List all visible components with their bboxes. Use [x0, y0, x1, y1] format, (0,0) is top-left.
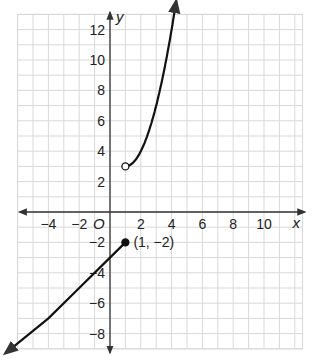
y-tick-label: −6 [89, 295, 105, 311]
x-tick-label: −4 [40, 216, 56, 232]
y-tick-label: −8 [89, 326, 105, 342]
y-tick-label: −4 [89, 265, 105, 281]
x-tick-label: 8 [229, 216, 237, 232]
y-tick-label: 4 [97, 143, 105, 159]
x-tick-label: 10 [256, 216, 272, 232]
x-tick-label: 6 [199, 216, 207, 232]
y-axis-label: y [115, 8, 125, 25]
y-tick-label: 8 [97, 82, 105, 98]
open-endpoint [122, 163, 129, 170]
closed-endpoint [122, 239, 129, 246]
x-axis-label: x [292, 214, 301, 231]
parabola-piece [125, 1, 176, 167]
axes [20, 12, 305, 352]
linear-piece [5, 242, 125, 353]
y-tick-label: 12 [89, 22, 105, 38]
point-annotation: (1, −2) [133, 234, 174, 250]
annotations: (1, −2) [133, 234, 174, 250]
grid-lines [18, 14, 303, 348]
x-tick-label: −2 [71, 216, 87, 232]
piecewise-function-graph: −4−224681012108642−2−4−6−8 x y O (1, −2) [0, 0, 316, 363]
x-tick-label: 2 [137, 216, 145, 232]
y-tick-label: 2 [97, 174, 105, 190]
x-tick-label: 4 [168, 216, 176, 232]
y-tick-label: −2 [89, 234, 105, 250]
origin-label: O [93, 215, 105, 232]
y-tick-label: 10 [89, 52, 105, 68]
y-tick-label: 6 [97, 113, 105, 129]
